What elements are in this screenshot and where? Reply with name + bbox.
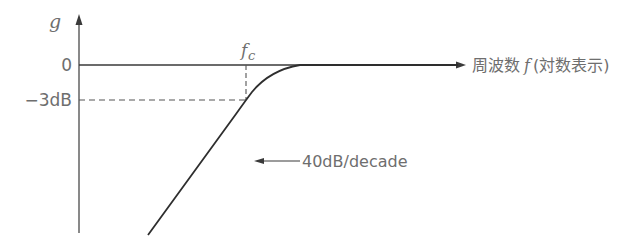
x-axis-label: 周波数 f (対数表示): [472, 56, 609, 75]
x-axis-label-suffix: (対数表示): [533, 56, 609, 75]
cutoff-frequency-label: f c: [239, 40, 256, 63]
tick-minus3db-label: −3dB: [24, 90, 72, 110]
y-axis-arrow-icon: [76, 14, 83, 25]
x-axis-label-prefix: 周波数: [472, 56, 520, 75]
slope-annotation-label: 40dB/decade: [302, 152, 407, 171]
cutoff-sub: c: [248, 48, 256, 63]
response-curve: [148, 65, 458, 235]
tick-zero-label: 0: [61, 55, 72, 75]
x-axis-label-var: f: [523, 56, 533, 75]
slope-annotation-arrow: [254, 158, 300, 164]
y-axis-label: g: [49, 10, 61, 32]
bode-diagram: g 0 −3dB f c 周波数 f (対数表示) 40dB/decade: [0, 0, 638, 247]
y-axis: [76, 14, 83, 233]
slope-arrow-icon: [254, 158, 264, 164]
